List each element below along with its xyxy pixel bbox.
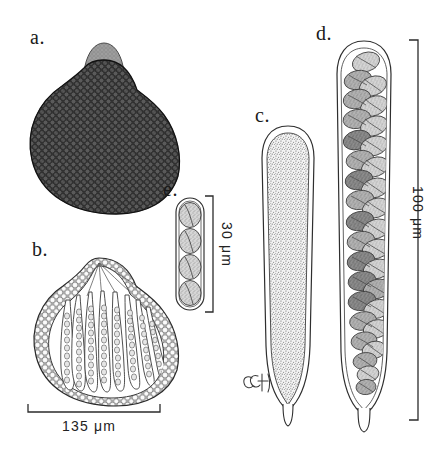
panel-label-b: b.	[32, 238, 48, 261]
illustration-plate: a. b. c. d. e. 135 μm 30 μm 100 μm	[0, 0, 446, 459]
scale-label-135um: 135 μm	[62, 418, 116, 434]
panel-label-e: e.	[163, 178, 178, 201]
scale-bar-135um	[28, 404, 160, 412]
panel-a-perithecium	[30, 43, 179, 214]
scale-label-100um: 100 μm	[410, 186, 426, 240]
panel-label-d: d.	[316, 22, 332, 45]
panel-d-mature-ascus	[337, 41, 393, 432]
artist-signature	[244, 374, 270, 392]
panel-label-a: a.	[30, 26, 45, 49]
scale-label-30um: 30 μm	[219, 222, 235, 267]
panel-label-c: c.	[255, 104, 270, 127]
panel-e-spore-chain	[176, 198, 204, 310]
scale-bar-30um	[205, 196, 213, 312]
panel-b-section	[34, 258, 178, 406]
